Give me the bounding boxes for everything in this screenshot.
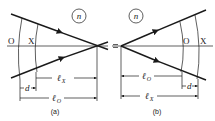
plane-label-x: X <box>200 36 207 46</box>
ray-arrow-icon <box>121 31 156 46</box>
upper-ray <box>154 10 206 32</box>
wavefront-x <box>195 15 199 79</box>
optics-diagram: O X n ℓX d ℓO (a) <box>0 0 215 121</box>
dimension-lx-label: ℓX <box>57 73 66 84</box>
dimension-lo-label: ℓO <box>52 93 62 104</box>
wavefront-o <box>18 18 22 80</box>
dimension-lx-label: ℓX <box>145 91 154 102</box>
wavefront-o <box>180 22 183 72</box>
lower-ray <box>60 42 108 59</box>
dimension-lo-label: ℓO <box>142 71 152 82</box>
medium-label: n <box>134 11 139 21</box>
plane-label-x: X <box>28 36 35 46</box>
panel-b: O X n ℓO d ℓX (b) <box>112 9 213 116</box>
ray-arrow-icon <box>11 14 60 32</box>
plane-label-o: O <box>8 36 15 46</box>
panel-a: O X n ℓX d ℓO (a) <box>7 9 108 116</box>
medium-label: n <box>77 11 82 21</box>
wavefront-x <box>35 24 38 72</box>
plane-label-o: O <box>183 36 190 46</box>
dimension-d-label: d <box>25 83 30 93</box>
panel-caption-a: (a) <box>51 108 60 116</box>
dimension-d-label: d <box>187 81 192 91</box>
upper-ray <box>58 31 108 49</box>
panel-caption-b: (b) <box>153 108 162 116</box>
ray-arrow-icon <box>121 46 157 61</box>
